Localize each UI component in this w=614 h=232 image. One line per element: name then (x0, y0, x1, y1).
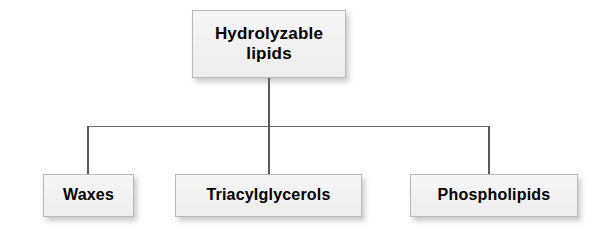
connector-drop-waxes (87, 126, 89, 174)
node-hydrolyzable-lipids: Hydrolyzable lipids (192, 10, 346, 78)
node-phospholipids: Phospholipids (410, 174, 578, 217)
node-triacylglycerols-label: Triacylglycerols (200, 186, 336, 205)
connector-drop-triacylglycerols (268, 126, 270, 174)
diagram-canvas: Hydrolyzable lipids Waxes Triacylglycero… (0, 0, 614, 232)
connector-horizontal-bus (88, 126, 490, 127)
connector-drop-phospholipids (488, 126, 490, 174)
node-hydrolyzable-lipids-label: Hydrolyzable lipids (209, 24, 329, 64)
connector-root-stem (268, 78, 270, 127)
node-waxes-label: Waxes (57, 186, 120, 205)
node-triacylglycerols: Triacylglycerols (175, 174, 362, 217)
node-waxes: Waxes (43, 174, 134, 217)
node-phospholipids-label: Phospholipids (432, 186, 557, 205)
